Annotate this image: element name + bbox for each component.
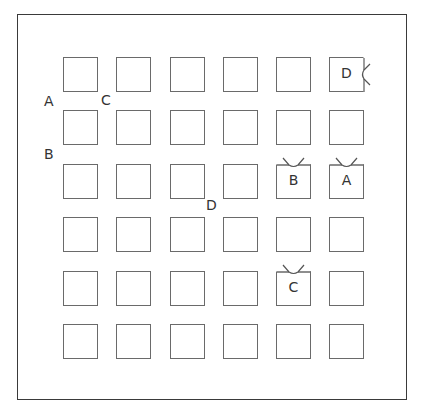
grid-square	[276, 324, 311, 359]
notch-mark-icon	[329, 157, 364, 171]
grid-square	[63, 271, 98, 306]
grid-square	[329, 324, 364, 359]
outer-label-c: C	[101, 92, 111, 108]
outer-label-a: A	[44, 93, 54, 109]
grid-square	[170, 324, 205, 359]
grid-square	[63, 324, 98, 359]
grid-square	[223, 271, 258, 306]
grid-square	[276, 110, 311, 145]
grid-square	[329, 110, 364, 145]
grid-square	[170, 217, 205, 252]
grid-square	[116, 164, 151, 199]
square-label: A	[330, 172, 363, 188]
grid-square	[276, 57, 311, 92]
square-label: B	[277, 172, 310, 188]
grid-square: D	[329, 57, 364, 92]
square-label: C	[277, 279, 310, 295]
grid-square: C	[276, 271, 311, 306]
grid-square	[116, 57, 151, 92]
notch-mark-icon	[276, 157, 311, 171]
notch-mark-icon	[356, 57, 370, 92]
grid-square	[63, 164, 98, 199]
grid-square	[223, 217, 258, 252]
grid-square	[329, 217, 364, 252]
grid-square: A	[329, 164, 364, 199]
grid-square	[170, 57, 205, 92]
grid-square	[223, 110, 258, 145]
grid-square: B	[276, 164, 311, 199]
grid-square	[329, 271, 364, 306]
grid-square	[116, 271, 151, 306]
grid-square	[170, 271, 205, 306]
grid-square	[63, 217, 98, 252]
grid-square	[223, 324, 258, 359]
grid-square	[116, 217, 151, 252]
notch-mark-icon	[276, 264, 311, 278]
grid-square	[63, 110, 98, 145]
grid-square	[170, 164, 205, 199]
outer-label-b: B	[44, 146, 54, 162]
grid-square	[116, 324, 151, 359]
grid-square	[223, 164, 258, 199]
grid-square	[276, 217, 311, 252]
grid-square	[170, 110, 205, 145]
grid-square	[223, 57, 258, 92]
grid-square	[63, 57, 98, 92]
outer-label-d: D	[206, 197, 217, 213]
grid-square	[116, 110, 151, 145]
